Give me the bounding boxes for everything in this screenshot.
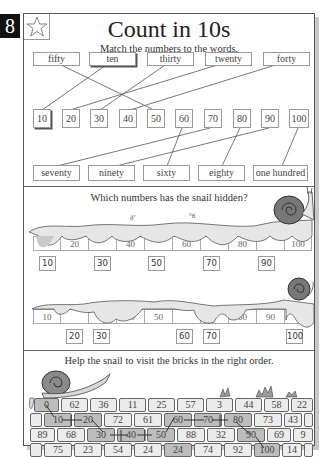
strip1-cell bbox=[257, 236, 285, 251]
answer-box[interactable]: 20 bbox=[66, 329, 83, 344]
brick[interactable]: 69 bbox=[267, 428, 291, 442]
answer-box[interactable]: 100 bbox=[286, 329, 303, 344]
number-box-40[interactable]: 40 bbox=[119, 109, 137, 128]
answer-box[interactable]: 90 bbox=[258, 256, 275, 271]
strip2-cell bbox=[89, 309, 117, 324]
strip1-cell bbox=[145, 236, 173, 251]
word-box-ten[interactable]: ten bbox=[89, 52, 136, 66]
brick[interactable]: 61 bbox=[134, 413, 162, 427]
brick[interactable]: 89 bbox=[30, 428, 55, 442]
brick[interactable]: 60 bbox=[164, 413, 192, 427]
answer-box[interactable]: 60 bbox=[176, 329, 193, 344]
brick[interactable]: 57 bbox=[177, 398, 204, 412]
brick[interactable]: 73 bbox=[254, 413, 282, 427]
number-box-90[interactable]: 90 bbox=[261, 109, 279, 128]
answer-box[interactable]: 30 bbox=[94, 256, 111, 271]
brick[interactable]: 40 bbox=[117, 428, 145, 442]
brick[interactable]: 3 bbox=[206, 398, 233, 412]
brick[interactable]: 20 bbox=[74, 413, 102, 427]
answer-box[interactable]: 10 bbox=[39, 256, 56, 271]
word-box-thirty[interactable]: thirty bbox=[147, 52, 194, 66]
brick[interactable]: 9 bbox=[293, 428, 313, 442]
strip2-cell bbox=[61, 309, 89, 324]
brick[interactable]: 22 bbox=[291, 398, 313, 412]
brick[interactable]: 14 bbox=[282, 443, 302, 457]
brick[interactable]: 43 bbox=[284, 413, 302, 427]
answer-box[interactable]: 30 bbox=[93, 329, 110, 344]
brick[interactable]: 80 bbox=[224, 413, 252, 427]
brick[interactable]: 62 bbox=[61, 398, 88, 412]
section-divider bbox=[24, 186, 314, 187]
section3-instruction: Help the snail to visit the bricks in th… bbox=[24, 355, 314, 366]
svg-text:ðº: ðº bbox=[130, 214, 137, 222]
brick[interactable]: 24 bbox=[164, 443, 192, 457]
word-box-seventy[interactable]: seventy bbox=[33, 165, 80, 181]
number-box-70[interactable]: 70 bbox=[204, 109, 222, 128]
brick[interactable]: 0 bbox=[34, 398, 59, 412]
word-box-sixty[interactable]: sixty bbox=[143, 165, 190, 181]
svg-text:°8: °8 bbox=[189, 212, 196, 220]
word-box-fifty[interactable]: fifty bbox=[33, 52, 80, 66]
number-box-60[interactable]: 60 bbox=[175, 109, 193, 128]
brick[interactable]: 11 bbox=[119, 398, 146, 412]
strip1-cell: 20 bbox=[61, 236, 89, 251]
brick[interactable]: 44 bbox=[235, 398, 262, 412]
number-box-30[interactable]: 30 bbox=[90, 109, 108, 128]
number-box-20[interactable]: 20 bbox=[62, 109, 80, 128]
number-box-100[interactable]: 100 bbox=[289, 109, 309, 128]
brick[interactable]: 74 bbox=[194, 443, 222, 457]
brick bbox=[304, 413, 313, 427]
strip1-cell: 80 bbox=[229, 236, 257, 251]
page-number: 8 bbox=[0, 14, 20, 38]
word-box-one-hundred[interactable]: one hundred bbox=[253, 165, 308, 181]
brick[interactable]: 100 bbox=[254, 443, 280, 457]
strip2-cell bbox=[285, 309, 312, 324]
brick[interactable]: 68 bbox=[57, 428, 85, 442]
word-box-twenty[interactable]: twenty bbox=[205, 52, 252, 66]
section-divider bbox=[24, 350, 314, 351]
brick[interactable]: 70 bbox=[194, 413, 222, 427]
strip2-cell: 80 bbox=[229, 309, 257, 324]
strip2-cell: 40 bbox=[117, 309, 145, 324]
strip1-cell bbox=[201, 236, 229, 251]
brick[interactable]: 36 bbox=[90, 398, 117, 412]
strip2-cell: 50 bbox=[145, 309, 173, 324]
answer-box[interactable]: 70 bbox=[203, 329, 220, 344]
brick[interactable]: 23 bbox=[74, 443, 102, 457]
answer-box[interactable]: 50 bbox=[148, 256, 165, 271]
brick[interactable]: 30 bbox=[87, 428, 115, 442]
brick[interactable]: 88 bbox=[177, 428, 205, 442]
strip1-cell bbox=[89, 236, 117, 251]
brick[interactable]: 72 bbox=[104, 413, 132, 427]
brick[interactable]: 58 bbox=[264, 398, 289, 412]
number-box-80[interactable]: 80 bbox=[233, 109, 251, 128]
brick[interactable]: 50 bbox=[147, 428, 175, 442]
brick[interactable]: 90 bbox=[237, 428, 265, 442]
brick bbox=[304, 443, 313, 457]
brick[interactable]: 10 bbox=[44, 413, 72, 427]
word-box-forty[interactable]: forty bbox=[263, 52, 310, 66]
word-box-eighty[interactable]: eighty bbox=[198, 165, 245, 181]
brick bbox=[30, 443, 42, 457]
brick[interactable]: 32 bbox=[207, 428, 235, 442]
strip2-cell bbox=[201, 309, 229, 324]
strip2-cell bbox=[173, 309, 201, 324]
brick[interactable]: 54 bbox=[104, 443, 132, 457]
brick[interactable]: 92 bbox=[224, 443, 252, 457]
brick[interactable]: 25 bbox=[148, 398, 175, 412]
worksheet: Count in 10s Match the numbers to the wo… bbox=[23, 13, 315, 446]
strip1-cell: 40 bbox=[117, 236, 145, 251]
strip2-cell: 10 bbox=[33, 309, 61, 324]
page-title: Count in 10s bbox=[24, 16, 314, 43]
section2-instruction: Which numbers has the snail hidden? bbox=[24, 192, 314, 203]
word-box-ninety[interactable]: ninety bbox=[88, 165, 135, 181]
number-box-50[interactable]: 50 bbox=[147, 109, 165, 128]
brick[interactable]: 75 bbox=[44, 443, 72, 457]
strip2-cell: 90 bbox=[257, 309, 285, 324]
answer-box[interactable]: 70 bbox=[203, 256, 220, 271]
brick[interactable]: 24 bbox=[134, 443, 162, 457]
strip1-cell: 100 bbox=[285, 236, 312, 251]
number-box-10[interactable]: 10 bbox=[33, 109, 51, 128]
brick bbox=[30, 413, 42, 427]
strip1-cell bbox=[33, 236, 61, 251]
